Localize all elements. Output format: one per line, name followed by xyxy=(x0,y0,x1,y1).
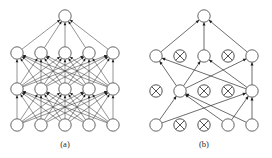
network-node xyxy=(59,10,71,22)
network-node xyxy=(11,47,23,59)
node-circle xyxy=(35,47,47,59)
panel-b-edges xyxy=(160,20,252,123)
edge-arrowhead xyxy=(59,21,62,24)
network-node xyxy=(11,119,23,131)
edge-arrowhead xyxy=(92,94,95,97)
edge-arrowhead xyxy=(44,58,47,61)
network-node xyxy=(150,50,162,62)
network-node xyxy=(59,119,71,131)
edge xyxy=(186,59,247,89)
network-node xyxy=(59,83,71,95)
edge-arrowhead xyxy=(20,58,23,61)
node-circle xyxy=(35,119,47,131)
pruned-node xyxy=(198,119,210,131)
node-circle xyxy=(11,119,23,131)
pruned-node xyxy=(150,85,162,97)
network-node xyxy=(107,119,119,131)
edge-arrowhead xyxy=(242,93,246,96)
node-circle xyxy=(59,10,71,22)
node-circle xyxy=(222,119,234,131)
network-node xyxy=(246,50,258,62)
node-circle xyxy=(59,119,71,131)
node-circle xyxy=(107,47,119,59)
edge-arrowhead xyxy=(68,21,71,24)
edge-arrowhead xyxy=(70,57,73,60)
network-node xyxy=(150,119,162,131)
edge-arrowhead xyxy=(112,95,115,98)
edge-arrowhead xyxy=(57,20,60,23)
node-circle xyxy=(246,85,258,97)
edge-arrowhead xyxy=(202,22,205,25)
network-node xyxy=(35,47,47,59)
edge-arrowhead xyxy=(107,58,110,61)
node-circle xyxy=(150,119,162,131)
network-node xyxy=(35,119,47,131)
edge xyxy=(209,60,247,88)
edge-arrowhead xyxy=(16,59,19,62)
node-circle xyxy=(59,83,71,95)
edge-arrowhead xyxy=(40,95,43,98)
panel-b-caption: (b) xyxy=(199,139,209,149)
edge-arrowhead xyxy=(20,94,23,97)
edge-arrowhead xyxy=(88,59,91,62)
edge-arrowhead xyxy=(68,94,71,97)
node-circle xyxy=(35,83,47,95)
edge xyxy=(161,20,199,52)
edge-arrowhead xyxy=(83,58,86,61)
panel-a-caption: (a) xyxy=(60,139,70,149)
network-node xyxy=(246,119,258,131)
node-circle xyxy=(174,85,186,97)
edge-arrowhead xyxy=(107,94,110,97)
edge-arrowhead xyxy=(209,60,213,63)
edge-arrowhead xyxy=(59,94,62,97)
node-circle xyxy=(150,50,162,62)
node-circle xyxy=(246,119,258,131)
node-circle xyxy=(83,47,95,59)
network-node xyxy=(107,83,119,95)
node-circle xyxy=(246,50,258,62)
edge-arrowhead xyxy=(16,95,19,98)
edge-arrowhead xyxy=(245,96,248,100)
edge-arrowhead xyxy=(59,58,62,61)
node-circle xyxy=(83,83,95,95)
network-node xyxy=(83,119,95,131)
edge xyxy=(162,58,246,89)
pruned-node xyxy=(222,50,234,62)
pruned-node xyxy=(174,50,186,62)
network-node xyxy=(174,85,186,97)
edge xyxy=(209,20,247,52)
edge-arrowhead xyxy=(70,93,73,96)
edge-arrowhead xyxy=(173,96,176,100)
network-node xyxy=(198,10,210,22)
network-node xyxy=(222,119,234,131)
edge-arrowhead xyxy=(64,59,67,62)
edge-arrowhead xyxy=(64,95,67,98)
edge-arrowhead xyxy=(250,62,253,65)
edge-arrowhead xyxy=(92,58,95,61)
edge-arrowhead xyxy=(57,93,60,96)
edge-arrowhead xyxy=(88,95,91,98)
edge xyxy=(186,94,247,123)
edge-arrowhead xyxy=(250,97,253,100)
figure-root: (a) (b) xyxy=(0,0,272,158)
edge-arrowhead xyxy=(112,59,115,62)
edge xyxy=(70,20,108,49)
node-circle xyxy=(11,83,23,95)
network-node xyxy=(107,47,119,59)
network-node xyxy=(35,83,47,95)
node-circle xyxy=(83,119,95,131)
network-node xyxy=(198,50,210,62)
node-circle xyxy=(59,47,71,59)
edge-arrowhead xyxy=(70,20,73,23)
node-circle xyxy=(107,83,119,95)
edge-arrowhead xyxy=(162,58,166,61)
edge-arrowhead xyxy=(197,61,200,65)
edge xyxy=(232,96,249,120)
edge xyxy=(22,20,60,49)
node-circle xyxy=(107,119,119,131)
edge-arrowhead xyxy=(40,59,43,62)
network-node xyxy=(59,47,71,59)
node-circle xyxy=(11,47,23,59)
edge-arrowhead xyxy=(160,61,163,65)
network-diagram-svg: (a) (b) xyxy=(0,0,272,158)
